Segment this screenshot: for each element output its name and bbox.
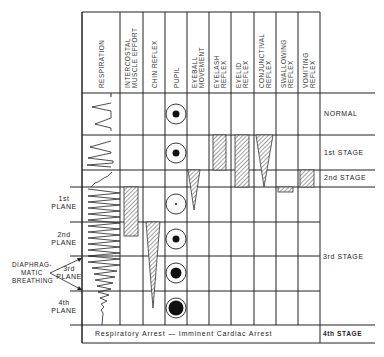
arrest-label: Respiratory Arrest — Imminent Cardiac Ar… (95, 330, 272, 337)
header-swallowing: SWALLOWING REFLEX (280, 39, 294, 88)
header-eyelash: EYELASH REFLEX (213, 55, 227, 88)
stage-2: 2nd STAGE (324, 174, 366, 181)
diaphragmatic-breathing: DIAPHRAG- MATIC BREATHING (12, 261, 52, 285)
stage-normal: NORMAL (324, 110, 358, 117)
header-respiration: RESPIRATION (98, 40, 105, 88)
stage-1: 1st STAGE (324, 149, 364, 156)
stage-3: 3rd STAGE (323, 253, 364, 260)
header-conjunctival: CONJUNCTIVAL REFLEX (258, 33, 272, 88)
header-intercostal: INTERCOSTAL MUSCLE EFFORT (124, 28, 138, 88)
header-eyelid: EYELID REFLEX (235, 60, 249, 88)
plane-2: 2nd PLANE (48, 231, 80, 247)
plane-1: 1st PLANE (48, 195, 80, 211)
header-eyeball: EYEBALL MOVEMENT (191, 47, 205, 88)
header-chin-reflex: CHIN REFLEX (151, 40, 158, 88)
plane-3: 3rd PLANE (56, 265, 82, 281)
plane-4: 4th PLANE (48, 299, 80, 315)
stage-4: 4th STAGE (323, 330, 362, 337)
header-vomiting: VOMITING REFLEX (302, 52, 316, 88)
header-pupil: PUPIL (173, 67, 180, 88)
